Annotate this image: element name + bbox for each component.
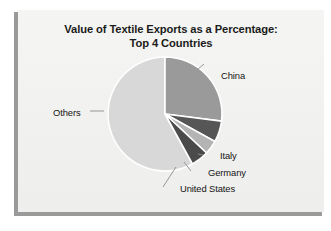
pie-label-germany: Germany [208,167,246,178]
pie-label-united-states: United States [180,183,235,194]
pie-label-italy: Italy [220,150,237,161]
scanned-page: Value of Textile Exports as a Percentage… [0,0,331,231]
page-sheet: Value of Textile Exports as a Percentage… [18,10,324,212]
pie-label-others: Others [53,107,81,118]
pie-slice-china[interactable] [165,57,222,121]
pie-chart: China Italy Germany United States Others [18,10,324,212]
pie-label-china: China [221,70,245,81]
